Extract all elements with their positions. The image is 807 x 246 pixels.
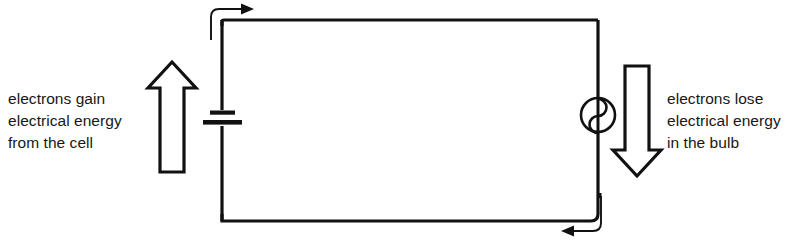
cell-long-plate [203,120,242,125]
energy-loss-caption-line-1: electrons lose [667,88,781,110]
wire-right-lower [230,132,598,221]
energy-gain-caption: electrons gain electrical energy from th… [8,88,122,154]
energy-loss-arrow-shape [613,66,661,176]
circuit-diagram: electrons gain electrical energy from th… [0,0,807,246]
energy-loss-caption-line-3: in the bulb [667,132,781,154]
energy-gain-caption-line-2: electrical energy [8,110,122,132]
energy-gain-arrow [148,62,196,172]
current-arrow-top-tail [211,9,245,40]
current-arrow-bottom-head [561,226,574,237]
energy-loss-caption-line-2: electrical energy [667,110,781,132]
current-arrow-bottom [561,193,602,237]
circuit-wire-loop [222,20,598,221]
cell-short-plate [210,111,235,115]
current-arrow-top [211,4,254,41]
energy-gain-caption-line-3: from the cell [8,132,122,154]
energy-loss-caption: electrons lose electrical energy in the … [667,88,781,154]
bulb-symbol [581,98,615,133]
current-arrow-bottom-anchor [598,193,602,198]
wire-top [222,20,598,26]
cell-symbol [203,111,242,125]
current-arrow-bottom-tail [570,196,601,231]
energy-gain-arrow-shape [148,62,196,172]
current-arrow-top-head [241,4,254,15]
energy-gain-caption-line-1: electrons gain [8,88,122,110]
energy-loss-arrow [613,66,661,176]
